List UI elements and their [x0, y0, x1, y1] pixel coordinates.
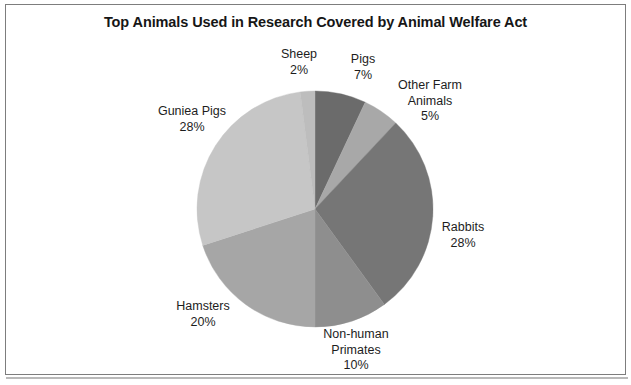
slice-label-guinea-pigs-pct: 28% — [141, 120, 243, 136]
slice-label-sheep-pct: 2% — [263, 63, 335, 79]
slice-label-non-human-primates-pct: 10% — [304, 358, 408, 374]
slice-label-non-human-primates-name: Non-human — [304, 327, 408, 343]
figure-shadow — [6, 377, 628, 379]
chart-figure: Top Animals Used in Research Covered by … — [0, 0, 631, 385]
slice-label-sheep-name: Sheep — [263, 47, 335, 63]
slice-label-rabbits-pct: 28% — [426, 236, 500, 252]
slice-label-non-human-primates: Non-human Primates 10% — [304, 327, 408, 374]
slice-label-guinea-pigs-name: Guniea Pigs — [141, 104, 243, 120]
slice-label-rabbits-name: Rabbits — [426, 220, 500, 236]
slice-label-sheep: Sheep 2% — [263, 47, 335, 78]
slice-label-other-farm-animals: Other Farm Animals 5% — [381, 78, 479, 125]
slice-label-non-human-primates-name2: Primates — [304, 343, 408, 359]
slice-label-guinea-pigs: Guniea Pigs 28% — [141, 104, 243, 135]
page-title: Top Animals Used in Research Covered by … — [0, 14, 631, 30]
slice-label-other-farm-animals-pct: 5% — [381, 109, 479, 125]
slice-label-rabbits: Rabbits 28% — [426, 220, 500, 251]
slice-label-other-farm-animals-name2: Animals — [381, 94, 479, 110]
slice-label-hamsters: Hamsters 20% — [160, 299, 246, 330]
slice-label-hamsters-pct: 20% — [160, 315, 246, 331]
slice-label-hamsters-name: Hamsters — [160, 299, 246, 315]
slice-label-pigs-name: Pigs — [337, 52, 389, 68]
slice-label-other-farm-animals-name: Other Farm — [381, 78, 479, 94]
